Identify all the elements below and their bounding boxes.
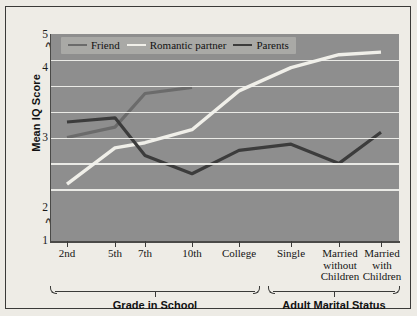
gridline-2.5 [51,163,399,164]
y-tick-2: 2 [26,201,48,213]
y-tick-3: 3 [26,131,48,143]
y-tick-1: 1 [26,234,48,246]
group-label-grade-in-school: Grade in School [50,299,260,311]
x-label-married-with-children: Married with Children [356,248,408,283]
gridline-4 [51,86,399,87]
x-label-single: Single [264,248,318,260]
chart-frame: Mean IQ Score 5 4 3 2 1 ∿ ∿ [5,6,411,309]
x-label-2nd: 2nd [47,248,87,260]
legend-item-romantic-partner: Romantic partner [127,39,227,51]
brace-adult-marital-status [268,285,400,298]
y-tick-4: 4 [26,61,48,73]
brace-grade-in-school [50,285,260,298]
group-label-adult-marital-status: Adult Marital Status [268,299,400,311]
legend-swatch-friend [68,44,87,47]
x-label-10th: 10th [170,248,214,260]
legend-swatch-parents [233,44,252,47]
x-label-college: College [211,248,267,260]
legend-item-friend: Friend [68,39,120,51]
gridline-2 [51,189,399,190]
chart-legend: Friend Romantic partner Parents [61,37,296,54]
legend-label-friend: Friend [91,39,120,51]
legend-label-parents: Parents [256,39,288,51]
x-label-7th: 7th [125,248,165,260]
legend-label-romantic-partner: Romantic partner [150,39,227,51]
gridline-3.5 [51,112,399,113]
gridline-3 [51,138,399,139]
plot-area: Friend Romantic partner Parents [51,34,399,241]
legend-swatch-romantic-partner [127,44,146,47]
chart-figure: Mean IQ Score 5 4 3 2 1 ∿ ∿ [0,0,417,316]
gridline-4.5 [51,60,399,61]
legend-item-parents: Parents [233,39,288,51]
x-axis-line [50,241,400,243]
